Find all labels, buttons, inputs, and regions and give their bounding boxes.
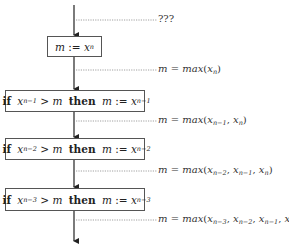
math-token: m (52, 143, 62, 155)
math-token: max (182, 213, 203, 224)
math-token: := (115, 95, 127, 107)
assign-box: m := xn (47, 36, 102, 57)
math-token: x (285, 213, 289, 224)
math-token: n−1 (264, 218, 278, 226)
annotation-unknown: ??? (158, 13, 174, 24)
math-token: := (68, 41, 80, 53)
math-token: m (102, 95, 112, 107)
math-token: m (52, 194, 62, 206)
math-token: n−2 (213, 169, 227, 177)
math-token: = (171, 164, 179, 175)
math-token: m (158, 213, 167, 224)
math-token: then (69, 194, 96, 206)
math-token: n−2 (23, 145, 37, 153)
annotation-4: m = max(xn−3, xn−2, xn−1, xn) (158, 213, 289, 226)
annotation-3: m = max(xn−2, xn−1, xn) (158, 164, 273, 177)
math-token: n−3 (137, 196, 151, 204)
math-token: > (40, 194, 49, 206)
math-token: n−3 (213, 218, 227, 226)
math-token: max (182, 164, 203, 175)
math-token: > (40, 95, 49, 107)
math-token: n−2 (239, 218, 253, 226)
math-token: = (171, 114, 179, 125)
math-token: then (69, 95, 96, 107)
math-token: n−1 (23, 97, 37, 105)
if-box-1: if xn−1 > m then m := xn−1 (5, 90, 145, 112)
annotation-2: m = max(xn−1, xn) (158, 114, 247, 127)
math-token: ) (269, 164, 273, 175)
math-token: > (40, 143, 49, 155)
math-token: n−1 (239, 169, 253, 177)
math-token: m (158, 63, 167, 74)
math-token: n−2 (137, 145, 151, 153)
if-box-3: if xn−3 > m then m := xn−3 (5, 188, 145, 211)
math-token: n−3 (23, 196, 37, 204)
math-token: m (158, 114, 167, 125)
math-token: if (2, 95, 11, 107)
math-token: = (171, 213, 179, 224)
if-box-2: if xn−2 > m then m := xn−2 (5, 138, 145, 160)
annotation-1: m = max(xn) (158, 63, 221, 76)
math-token: if (2, 194, 11, 206)
math-token: if (2, 143, 11, 155)
math-token: n (90, 43, 94, 51)
math-token: ??? (158, 13, 174, 24)
math-token: m (52, 95, 62, 107)
math-token: n−1 (137, 97, 151, 105)
math-token: m (158, 164, 167, 175)
math-token: m (55, 41, 65, 53)
math-token: n−1 (213, 119, 227, 127)
math-token: then (69, 143, 96, 155)
math-token: ) (243, 114, 247, 125)
math-token: max (182, 63, 203, 74)
math-token: := (115, 143, 127, 155)
math-token: := (115, 194, 127, 206)
math-token: max (182, 114, 203, 125)
math-token: m (102, 194, 112, 206)
math-token: ) (217, 63, 221, 74)
math-token: = (171, 63, 179, 74)
math-token: m (102, 143, 112, 155)
